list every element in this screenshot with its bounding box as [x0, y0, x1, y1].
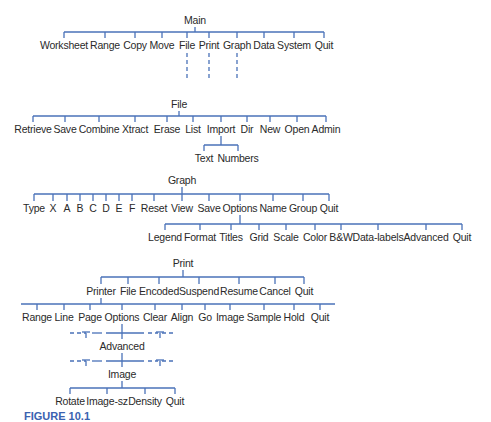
graph-node-options: Options — [223, 202, 258, 214]
graph-options-node-format: Format — [184, 231, 216, 243]
graph-options-node-titles: Titles — [219, 231, 243, 243]
file-node-admin: Admin — [312, 123, 341, 135]
file-import-node-text: Text — [195, 152, 213, 164]
file-node-erase: Erase — [154, 123, 180, 135]
graph-node-reset: Reset — [141, 202, 167, 214]
figure-caption: FIGURE 10.1Menu tree of a spreadsheet pr… — [24, 410, 433, 422]
print-node-cancel: Cancel — [259, 285, 290, 297]
print-image-node-image-sz: Image-sz — [86, 395, 128, 407]
file-import-node-numbers: Numbers — [217, 152, 258, 164]
print-root-node: Print — [173, 257, 194, 269]
graph-node-type: Type — [23, 202, 45, 214]
print-printer-node-page: Page — [78, 311, 102, 323]
graph-node-b: B — [77, 202, 84, 214]
main-node-file: File — [179, 39, 195, 51]
print-printer-node-align: Align — [171, 311, 193, 323]
graph-node-x: X — [50, 202, 57, 214]
figure-label: FIGURE 10.1 — [24, 410, 90, 422]
print-image-node: Image — [108, 368, 136, 380]
graph-options-node-scale: Scale — [273, 231, 298, 243]
print-printer-node-range: Range — [22, 311, 52, 323]
graph-options-node-advanced: Advanced — [403, 231, 448, 243]
graph-options-node-quit: Quit — [453, 231, 471, 243]
print-printer-node-sample: Sample — [247, 311, 281, 323]
file-node-xtract: Xtract — [122, 123, 148, 135]
graph-options-node-b-w: B&W — [329, 231, 352, 243]
file-node-open: Open — [285, 123, 310, 135]
print-advanced-node: Advanced — [99, 340, 144, 352]
main-root-node: Main — [184, 14, 206, 26]
print-node-resume: Resume — [220, 285, 258, 297]
print-printer-node-quit: Quit — [311, 311, 329, 323]
graph-options-node-legend: Legend — [148, 231, 182, 243]
print-printer-node-options: Options — [105, 311, 140, 323]
main-node-graph: Graph — [223, 39, 251, 51]
graph-root-node: Graph — [168, 174, 196, 186]
graph-node-c: C — [89, 202, 96, 214]
graph-node-e: E — [116, 202, 123, 214]
file-node-retrieve: Retrieve — [14, 123, 52, 135]
main-node-copy: Copy — [123, 39, 147, 51]
file-node-save: Save — [53, 123, 76, 135]
print-image-node-rotate: Rotate — [55, 395, 85, 407]
main-node-data: Data — [253, 39, 274, 51]
graph-node-save: Save — [197, 202, 220, 214]
graph-node-a: A — [64, 202, 71, 214]
graph-node-view: View — [171, 202, 193, 214]
file-node-import: Import — [207, 123, 236, 135]
file-node-list: List — [185, 123, 201, 135]
print-printer-node-clear: Clear — [143, 311, 167, 323]
graph-node-d: D — [102, 202, 109, 214]
file-root-node: File — [171, 98, 187, 110]
main-node-system: System — [277, 39, 311, 51]
print-printer-node-line: Line — [54, 311, 73, 323]
print-node-file: File — [120, 285, 136, 297]
print-printer-node-image: Image — [216, 311, 244, 323]
graph-node-name: Name — [259, 202, 286, 214]
main-node-print: Print — [199, 39, 220, 51]
graph-options-node-color: Color — [303, 231, 327, 243]
print-node-quit: Quit — [295, 285, 313, 297]
print-node-encoded: Encoded — [139, 285, 179, 297]
print-node-suspend: Suspend — [179, 285, 219, 297]
print-image-node-quit: Quit — [166, 395, 184, 407]
print-image-node-density: Density — [128, 395, 162, 407]
file-node-combine: Combine — [79, 123, 120, 135]
graph-node-group: Group — [289, 202, 317, 214]
main-node-quit: Quit — [315, 39, 333, 51]
graph-node-quit: Quit — [320, 202, 338, 214]
print-node-printer: Printer — [86, 285, 116, 297]
main-node-move: Move — [150, 39, 175, 51]
file-node-dir: Dir — [241, 123, 254, 135]
file-node-new: New — [260, 123, 280, 135]
main-node-worksheet: Worksheet — [40, 39, 88, 51]
print-printer-node-hold: Hold — [284, 311, 305, 323]
main-node-range: Range — [90, 39, 120, 51]
graph-options-node-grid: Grid — [249, 231, 268, 243]
graph-node-f: F — [129, 202, 135, 214]
graph-options-node-data-labels: Data-labels — [353, 231, 404, 243]
print-printer-node-go: Go — [198, 311, 212, 323]
